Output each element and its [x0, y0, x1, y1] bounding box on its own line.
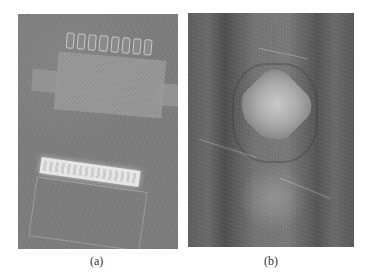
- pad: [66, 32, 75, 49]
- board-outline: [28, 176, 147, 249]
- pad: [121, 37, 130, 54]
- caption-a: (a): [90, 254, 103, 269]
- figure-panel-a: [18, 14, 178, 249]
- pad: [99, 35, 108, 52]
- component-body: [54, 51, 167, 118]
- caption-b: (b): [264, 254, 278, 269]
- pad: [110, 36, 119, 53]
- lower-bright-region: [238, 163, 308, 233]
- scratch-line: [258, 48, 307, 59]
- pad: [88, 34, 97, 51]
- pad: [143, 39, 152, 56]
- pad: [77, 33, 86, 50]
- pad: [132, 38, 141, 55]
- figure-panel-b: [188, 13, 354, 247]
